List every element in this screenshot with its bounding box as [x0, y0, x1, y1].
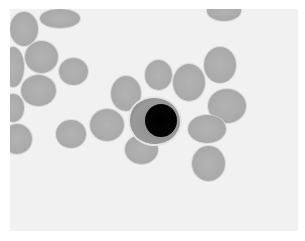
- red-blood-cell: [90, 109, 124, 141]
- red-blood-cell: [10, 47, 24, 87]
- red-blood-cell: [56, 120, 86, 148]
- red-blood-cell: [25, 41, 58, 73]
- red-blood-cell: [10, 94, 24, 122]
- red-blood-cell: [173, 64, 205, 101]
- red-blood-cell: [59, 58, 88, 85]
- red-blood-cell: [10, 12, 38, 46]
- lymphocyte-nucleus: [145, 104, 177, 137]
- red-blood-cell: [10, 124, 32, 154]
- red-blood-cell: [207, 9, 241, 21]
- red-blood-cell: [192, 146, 225, 181]
- red-blood-cell: [40, 9, 80, 28]
- red-blood-cell: [204, 47, 236, 83]
- red-blood-cell: [145, 60, 172, 90]
- micrograph-image: [10, 9, 298, 231]
- red-blood-cell: [21, 75, 56, 106]
- red-blood-cell: [188, 115, 226, 143]
